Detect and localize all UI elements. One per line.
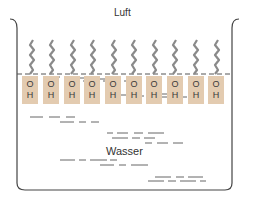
molecule-head-9: OH xyxy=(188,76,204,104)
hydrogen-label: H xyxy=(64,90,80,101)
oxygen-label: O xyxy=(84,79,100,90)
hydrogen-label: H xyxy=(208,90,224,101)
hydrophobic-tails xyxy=(30,40,219,74)
molecule-head-4: OH xyxy=(84,76,100,104)
tank-outline xyxy=(10,19,239,190)
hydrogen-label: H xyxy=(22,90,38,101)
oxygen-label: O xyxy=(126,79,142,90)
hydrogen-label: H xyxy=(84,90,100,101)
oxygen-label: O xyxy=(188,79,204,90)
oxygen-label: O xyxy=(22,79,38,90)
molecule-head-8: OH xyxy=(167,76,183,104)
molecule-head-5: OH xyxy=(105,76,121,104)
molecule-head-3: OH xyxy=(64,76,80,104)
oxygen-label: O xyxy=(105,79,121,90)
hydrogen-label: H xyxy=(43,90,59,101)
oxygen-label: O xyxy=(167,79,183,90)
air-label: Luft xyxy=(114,7,131,18)
water-label: Wasser xyxy=(106,145,143,157)
molecule-head-1: OH xyxy=(22,76,38,104)
oxygen-label: O xyxy=(208,79,224,90)
molecule-head-10: OH xyxy=(208,76,224,104)
molecule-head-6: OH xyxy=(126,76,142,104)
hydrogen-label: H xyxy=(105,90,121,101)
hydrogen-label: H xyxy=(167,90,183,101)
molecule-head-7: OH xyxy=(146,76,162,104)
molecule-head-2: OH xyxy=(43,76,59,104)
oxygen-label: O xyxy=(43,79,59,90)
hydrogen-label: H xyxy=(188,90,204,101)
hydrogen-label: H xyxy=(126,90,142,101)
hydrogen-label: H xyxy=(146,90,162,101)
oxygen-label: O xyxy=(64,79,80,90)
oxygen-label: O xyxy=(146,79,162,90)
